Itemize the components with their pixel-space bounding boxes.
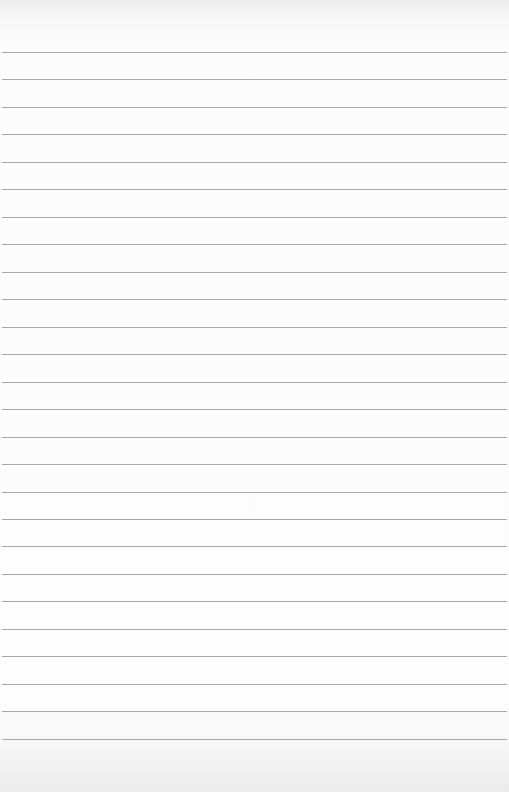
ruled-line: [2, 354, 507, 355]
ruled-line: [2, 107, 507, 108]
ruled-line: [2, 134, 507, 135]
ruled-line: [2, 519, 507, 520]
ruled-line: [2, 189, 507, 190]
ruled-line: [2, 629, 507, 630]
ruled-line: [2, 601, 507, 602]
ruled-line: [2, 437, 507, 438]
ruled-line: [2, 492, 507, 493]
ruled-line: [2, 382, 507, 383]
ruled-line: [2, 299, 507, 300]
ruled-line: [2, 739, 507, 740]
ruled-line: [2, 656, 507, 657]
ruled-line: [2, 272, 507, 273]
ruled-line: [2, 244, 507, 245]
ruled-line: [2, 546, 507, 547]
ruled-line: [2, 217, 507, 218]
ruled-line: [2, 162, 507, 163]
ruled-line: [2, 409, 507, 410]
ruled-line: [2, 327, 507, 328]
ruled-line: [2, 79, 507, 80]
ruled-line: [2, 711, 507, 712]
ruled-line: [2, 52, 507, 53]
ruled-line: [2, 574, 507, 575]
ruled-line: [2, 464, 507, 465]
lined-paper-sheet: [0, 0, 509, 792]
ruled-line: [2, 684, 507, 685]
